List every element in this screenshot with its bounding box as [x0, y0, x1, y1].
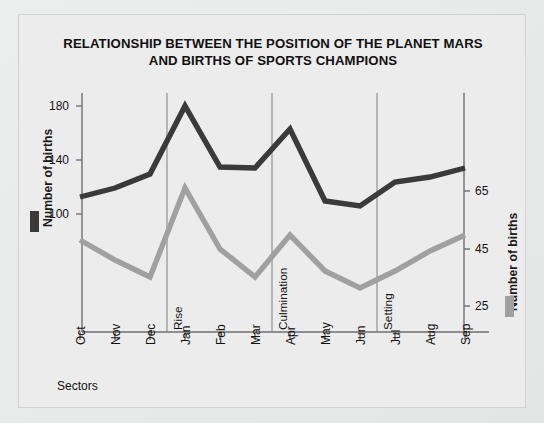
right-series-swatch — [505, 296, 514, 317]
x-label-jul: Jul — [389, 330, 403, 345]
right-tick-label-25: 25 — [475, 299, 488, 313]
x-label-feb: Feb — [214, 324, 228, 345]
annotation-rise: Rise — [171, 306, 185, 330]
annotation-culmination: Culmination — [276, 268, 290, 330]
x-label-sep: Sep — [459, 324, 473, 345]
x-tick-marks — [80, 332, 465, 340]
chart-card: RELATIONSHIP BETWEEN THE POSITION OF THE… — [18, 14, 526, 408]
x-label-nov: Nov — [109, 324, 123, 345]
x-label-aug: Aug — [424, 324, 438, 345]
chart-plot — [19, 15, 527, 409]
x-label-dec: Dec — [144, 324, 158, 345]
annotation-setting: Setting — [381, 293, 395, 330]
x-label-oct: Oct — [74, 326, 88, 345]
left-series-swatch — [30, 211, 39, 232]
left-tick-label-180: 180 — [49, 99, 69, 113]
x-label-mar: Mar — [249, 324, 263, 345]
right-tick-label-45: 45 — [475, 242, 488, 256]
x-axis-title: Sectors — [57, 379, 98, 393]
right-tick-label-65: 65 — [475, 184, 488, 198]
x-label-jun: Jun — [354, 326, 368, 345]
x-label-may: May — [319, 322, 333, 345]
screenshot-root: RELATIONSHIP BETWEEN THE POSITION OF THE… — [0, 0, 544, 423]
left-axis-title: Number of births — [41, 129, 55, 227]
